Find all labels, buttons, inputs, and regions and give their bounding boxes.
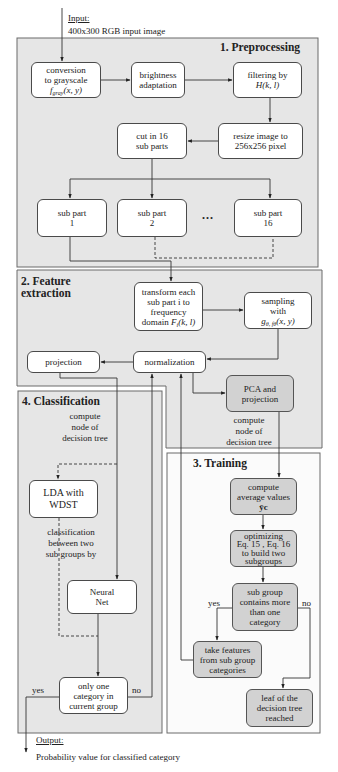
note-text: decision tree (54, 433, 116, 444)
note-text: node of (54, 422, 116, 433)
node-leaf-reached: leaf of the decision tree reached (246, 689, 313, 727)
math-sub: gray (53, 90, 64, 96)
node-text: frequency (151, 307, 187, 317)
node-text: subgroups (245, 557, 282, 566)
node-frequency-transform: transform each sub part i to frequency d… (134, 282, 203, 331)
section-title-training: 3. Training (193, 457, 247, 469)
node-pca-projection: PCA and projection (226, 375, 294, 412)
node-text: average values (237, 492, 290, 502)
node-grayscale-conversion: conversion to grayscale fgray(x, y) (31, 62, 101, 98)
node-sampling: sampling with gθ, fθ(x, y) (244, 292, 312, 329)
edge-label-training-no: no (302, 598, 311, 608)
node-text: Neural (90, 587, 115, 597)
node-lda-wdst: LDA with WDST (29, 480, 98, 518)
node-filtering: filtering by H(k, l) (233, 62, 302, 98)
section-title-feature-extraction: 2. Feature extraction (21, 275, 71, 299)
section-title-preprocessing: 1. Preprocessing (220, 41, 300, 53)
note-text: compute (218, 415, 280, 426)
node-text: contains more (240, 597, 291, 607)
note-text: classification (38, 527, 104, 538)
node-text: sub part (254, 208, 283, 218)
note-text: decision tree (218, 437, 280, 448)
flowchart-diagram: Input: 400x300 RGB input image Output: P… (0, 0, 338, 772)
math-args: (x, y) (276, 316, 294, 326)
node-text: resize image to (233, 131, 287, 141)
note-training-compute-node: compute node of decision tree (218, 415, 280, 448)
node-text: reached (266, 713, 294, 723)
node-text: conversion (46, 65, 86, 75)
node-text: LDA with (43, 487, 83, 499)
node-text: normalization (145, 357, 195, 367)
node-text: transform each (142, 287, 196, 297)
node-normalization: normalization (133, 351, 206, 373)
node-text: category in (73, 691, 113, 701)
node-text: only one (78, 681, 109, 691)
node-neural-net: Neural Net (67, 580, 137, 614)
math-args: (x, y) (64, 85, 82, 95)
node-text: from sub group (200, 655, 256, 665)
node-text: 256x256 pixel (235, 141, 287, 151)
node-text: adaptation (139, 80, 177, 90)
node-brightness-adaptation: brightness adaptation (131, 62, 185, 98)
node-text: to grayscale (44, 75, 87, 85)
node-text: brightness (140, 70, 177, 80)
node-text: sub part (138, 208, 167, 218)
node-sub-part-1: sub part 1 (37, 199, 107, 237)
note-classification-between: classification between two sub groups by (38, 527, 104, 560)
node-text: sub part i to (147, 297, 190, 307)
note-classification-compute-node: compute node of decision tree (54, 411, 116, 444)
node-text: category (250, 617, 281, 627)
node-sub-part-2: sub part 2 (117, 199, 187, 237)
node-text: sub group (247, 587, 283, 597)
ellipsis: ... (202, 208, 214, 223)
node-text: decision tree (257, 703, 303, 713)
node-subgroup-check: sub group contains more than one categor… (232, 583, 298, 631)
node-projection: projection (27, 351, 100, 373)
output-label: Output: (36, 735, 64, 745)
note-text: sub groups by (38, 549, 104, 560)
node-text: filtering by (247, 70, 287, 80)
node-optimizing: optimizing Eq. 15 , Eq. 16 to build two … (230, 530, 297, 567)
edge-label-training-yes: yes (208, 598, 220, 608)
node-text: categories (209, 665, 245, 675)
node-text: WDST (49, 499, 77, 511)
node-math: domain Fi(k, l) (142, 317, 195, 327)
input-label: Input: (68, 13, 90, 23)
node-math: H(k, l) (256, 80, 280, 90)
note-text: between two (38, 538, 104, 549)
node-text: 1 (70, 218, 75, 228)
input-description: 400x300 RGB input image (68, 26, 165, 36)
note-text: compute (54, 411, 116, 422)
node-math: fgray(x, y) (50, 85, 82, 95)
node-only-one-category: only one category in current group (59, 677, 128, 714)
node-cut-sub-parts: cut in 16 sub parts (117, 123, 187, 159)
node-text: leaf of the (261, 693, 297, 703)
node-text: projection (242, 394, 279, 404)
node-text: PCA and (244, 384, 276, 394)
node-text: compute (248, 482, 279, 492)
node-text: sampling (262, 296, 295, 306)
node-text: projection (45, 357, 82, 367)
node-text: with (270, 306, 286, 316)
node-compute-average: compute average values ȳc (230, 478, 297, 515)
math-sub: θ, fθ (266, 321, 277, 327)
node-sub-part-16: sub part 16 (234, 199, 302, 237)
node-text: domain (142, 317, 169, 327)
section-title-classification: 4. Classification (22, 395, 100, 407)
node-text: sub parts (136, 141, 168, 151)
node-text: 16 (264, 218, 273, 228)
section-title-line: extraction (21, 287, 71, 299)
node-text: sub part (58, 208, 87, 218)
node-math: ȳc (259, 502, 268, 512)
node-text: take features (205, 645, 251, 655)
node-text: cut in 16 (136, 131, 168, 141)
node-resize: resize image to 256x256 pixel (218, 123, 303, 159)
output-description: Probability value for classified categor… (36, 752, 180, 762)
note-text: node of (218, 426, 280, 437)
node-text: current group (69, 701, 118, 711)
edge-label-classification-no: no (132, 685, 141, 695)
edge-label-classification-yes: yes (32, 685, 44, 695)
node-text: than one (250, 607, 281, 617)
node-text: Net (96, 597, 109, 607)
math-args: (k, l) (178, 317, 195, 327)
